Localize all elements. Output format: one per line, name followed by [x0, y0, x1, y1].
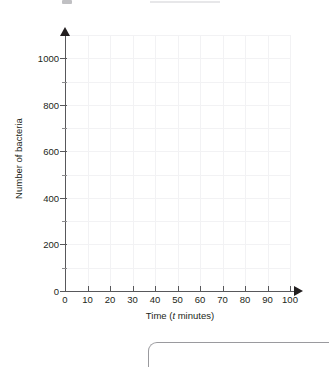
- y-axis-line: [65, 36, 66, 291]
- bacteria-growth-chart: 0102030405060708090100 02004006008001000…: [0, 0, 322, 330]
- y-axis-arrowhead-icon: [60, 27, 70, 36]
- x-axis-title-suffix: minutes): [175, 310, 214, 321]
- x-axis-title: Time (t minutes): [65, 310, 295, 321]
- y-axis-minor-tick: [62, 128, 67, 129]
- gridline-vertical: [200, 35, 201, 291]
- x-axis-tick: [268, 286, 269, 292]
- gridline-horizontal: [65, 268, 290, 269]
- x-axis-tick: [110, 286, 111, 292]
- gridline-horizontal: [65, 151, 290, 152]
- x-axis-tick: [245, 286, 246, 292]
- x-axis-tick: [155, 286, 156, 292]
- x-axis-line: [65, 291, 295, 292]
- gridline-vertical: [155, 35, 156, 291]
- y-axis-tick: [60, 198, 67, 199]
- gridline-vertical: [245, 35, 246, 291]
- x-axis-tick: [133, 286, 134, 292]
- y-axis-title: Number of bacteria: [13, 99, 24, 219]
- gridline-horizontal: [65, 58, 290, 59]
- gridline-vertical: [110, 35, 111, 291]
- gridline-horizontal: [65, 82, 290, 83]
- y-axis-tick: [60, 244, 67, 245]
- y-axis-tick-label: 200: [19, 239, 59, 250]
- y-axis-tick: [60, 58, 67, 59]
- x-axis-tick: [290, 286, 291, 292]
- y-axis-tick-label: 400: [19, 193, 59, 204]
- x-axis-tick: [178, 286, 179, 292]
- gridline-vertical: [268, 35, 269, 291]
- y-axis-tick: [60, 151, 67, 152]
- x-axis-tick-label: 100: [275, 294, 305, 305]
- answer-box: [148, 342, 329, 367]
- x-axis-tick: [88, 286, 89, 292]
- y-axis-tick-label: 1000: [19, 53, 59, 64]
- gridline-horizontal: [65, 35, 290, 36]
- gridline-horizontal: [65, 128, 290, 129]
- plot-area: [65, 35, 290, 291]
- y-axis-minor-tick: [62, 82, 67, 83]
- gridline-horizontal: [65, 198, 290, 199]
- x-axis-title-prefix: Time (: [146, 310, 173, 321]
- gridline-vertical: [133, 35, 134, 291]
- gridline-horizontal: [65, 244, 290, 245]
- gridline-vertical: [223, 35, 224, 291]
- y-axis-minor-tick: [62, 268, 67, 269]
- gridline-vertical: [290, 35, 291, 291]
- x-axis-tick: [200, 286, 201, 292]
- gridline-horizontal: [65, 105, 290, 106]
- y-axis-tick-label: 600: [19, 146, 59, 157]
- y-axis-tick-label: 800: [19, 100, 59, 111]
- gridline-horizontal: [65, 175, 290, 176]
- x-axis-tick: [223, 286, 224, 292]
- gridline-vertical: [88, 35, 89, 291]
- gridline-vertical: [178, 35, 179, 291]
- y-axis-minor-tick: [62, 175, 67, 176]
- y-axis-tick: [60, 105, 67, 106]
- y-axis-tick-label: 0: [19, 286, 59, 297]
- y-axis-minor-tick: [62, 221, 67, 222]
- gridline-horizontal: [65, 221, 290, 222]
- y-axis-tick: [60, 291, 67, 292]
